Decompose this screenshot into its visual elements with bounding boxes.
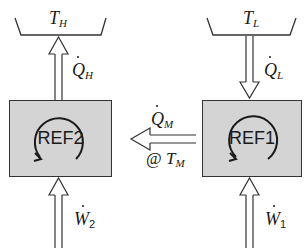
q-m-arrow-icon: [131, 128, 196, 150]
time-derivative-dot: [273, 205, 275, 207]
ref1-label: REF1: [203, 129, 301, 147]
q-m-temperature-label: @ TM: [146, 150, 185, 169]
w-2-arrow-icon: [49, 178, 68, 248]
q-l-label: QL: [264, 61, 283, 81]
q-h-label: QH: [72, 61, 93, 81]
q-h-arrow-icon: [49, 37, 68, 100]
time-derivative-dot: [156, 105, 158, 107]
time-derivative-dot: [77, 56, 79, 58]
hot-reservoir-label: TH: [49, 9, 67, 29]
q-m-label: QM: [151, 110, 173, 130]
w-2-label: W2: [74, 210, 95, 230]
ref2-label: REF2: [10, 129, 111, 147]
w-1-arrow-icon: [240, 178, 259, 248]
ref1-cycle-box: REF1: [202, 100, 302, 177]
cascade-refrigeration-diagram: REF2 REF1 TH TL QH QL QM @ TM W2 W1: [0, 0, 307, 248]
cold-reservoir-label: TL: [243, 9, 259, 29]
time-derivative-dot: [269, 56, 271, 58]
w-1-label: W1: [265, 210, 286, 230]
q-l-arrow-icon: [240, 36, 259, 98]
time-derivative-dot: [82, 205, 84, 207]
ref2-cycle-box: REF2: [9, 100, 112, 177]
